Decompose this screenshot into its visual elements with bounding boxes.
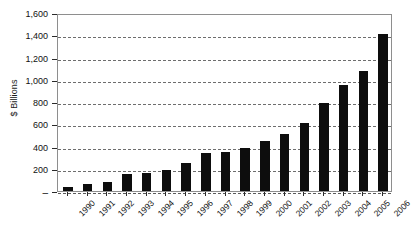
bar <box>339 85 349 191</box>
x-axis-tick <box>106 192 107 196</box>
x-axis-tick <box>185 192 186 196</box>
x-axis-tick <box>67 192 68 196</box>
x-axis-tick <box>87 192 88 196</box>
gridline <box>58 37 391 38</box>
x-axis-label: 1992 <box>116 198 136 218</box>
x-axis-label: 2005 <box>372 198 392 218</box>
bar <box>63 187 73 191</box>
x-axis-label: 2003 <box>333 198 353 218</box>
bar <box>280 134 290 191</box>
x-axis-tick <box>362 192 363 196</box>
x-axis-tick <box>382 192 383 196</box>
y-axis-label: 1,000 <box>0 76 48 86</box>
gridline <box>58 82 391 83</box>
plot-area <box>57 14 392 192</box>
bar <box>319 103 329 191</box>
y-axis-tick <box>52 192 57 193</box>
x-axis-label: 1995 <box>175 198 195 218</box>
y-axis-label: 200 <box>0 165 48 175</box>
bar <box>359 71 369 191</box>
y-axis-label: 1,600 <box>0 9 48 19</box>
x-axis-label: 2002 <box>313 198 333 218</box>
x-axis-label: 2004 <box>352 198 372 218</box>
x-axis-tick <box>146 192 147 196</box>
x-axis-tick <box>244 192 245 196</box>
bar <box>300 123 310 191</box>
x-axis-tick <box>165 192 166 196</box>
x-axis-tick <box>264 192 265 196</box>
x-axis-tick <box>343 192 344 196</box>
x-axis-label: 1991 <box>96 198 116 218</box>
bar <box>221 152 231 191</box>
bar <box>83 184 93 191</box>
gridline <box>58 60 391 61</box>
x-axis-label: 2000 <box>273 198 293 218</box>
bar <box>122 174 132 191</box>
x-axis-label: 1997 <box>214 198 234 218</box>
y-axis-label: – <box>0 187 48 198</box>
y-axis-label: 1,200 <box>0 54 48 64</box>
bar <box>162 170 172 191</box>
x-axis-label: 1999 <box>254 198 274 218</box>
x-axis-tick <box>126 192 127 196</box>
bar <box>103 182 113 191</box>
bar <box>378 34 388 191</box>
x-axis-label: 2001 <box>293 198 313 218</box>
x-axis-tick <box>323 192 324 196</box>
y-axis-label: 600 <box>0 120 48 130</box>
bar <box>240 148 250 191</box>
bar <box>201 153 211 191</box>
y-axis-label: 1,400 <box>0 31 48 41</box>
x-axis-label: 1998 <box>234 198 254 218</box>
y-axis-label: 800 <box>0 98 48 108</box>
y-axis-label: 400 <box>0 143 48 153</box>
x-axis-tick <box>205 192 206 196</box>
x-axis-label: 1996 <box>195 198 215 218</box>
x-axis-label: 1993 <box>136 198 156 218</box>
bar-chart: $ Billions –2004006008001,0001,2001,4001… <box>0 0 413 238</box>
plot-inner <box>58 15 391 191</box>
x-axis-label: 1990 <box>76 198 96 218</box>
bar <box>142 173 152 191</box>
bar <box>181 163 191 191</box>
bar <box>260 141 270 191</box>
x-axis-label: 1994 <box>155 198 175 218</box>
x-axis-tick <box>303 192 304 196</box>
x-axis-tick <box>225 192 226 196</box>
x-axis-tick <box>284 192 285 196</box>
x-axis-label: 2006 <box>392 198 412 218</box>
